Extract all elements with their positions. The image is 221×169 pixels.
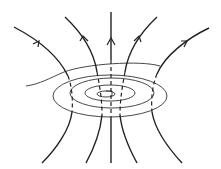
arrow-icon xyxy=(33,41,39,47)
field-line-left xyxy=(65,17,97,72)
field-line-right xyxy=(125,17,157,72)
field-lines xyxy=(14,12,209,163)
coil-outer-turn xyxy=(53,75,167,117)
field-line-far-right xyxy=(157,28,209,74)
coil-lead-wire xyxy=(26,63,160,86)
field-diagram xyxy=(0,0,221,169)
field-line-far-left xyxy=(14,27,68,76)
coil-inner-turn xyxy=(85,85,135,101)
